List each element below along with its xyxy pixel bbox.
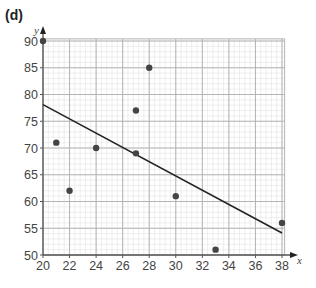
y-tick-label: 55 <box>24 222 38 236</box>
y-tick-label: 80 <box>24 88 38 102</box>
x-tick-label: 24 <box>89 259 103 273</box>
x-tick-label: 34 <box>222 259 236 273</box>
y-tick-label: 60 <box>24 195 38 209</box>
x-axis-label: x <box>296 254 302 266</box>
data-point <box>53 139 59 145</box>
data-point <box>212 246 218 252</box>
y-axis-label: y <box>33 24 39 36</box>
x-tick-label: 38 <box>275 259 289 273</box>
data-point <box>133 107 139 113</box>
line-of-best-fit <box>43 105 282 233</box>
x-tick-label: 36 <box>248 259 262 273</box>
y-tick-label: 75 <box>24 115 38 129</box>
x-tick-label: 30 <box>169 259 183 273</box>
data-point <box>66 188 72 194</box>
y-tick-label: 70 <box>24 142 38 156</box>
y-axis-arrow-icon <box>40 26 46 34</box>
x-tick-label: 26 <box>116 259 130 273</box>
scatter-chart: 20222426283032343638505560657075808590xy <box>0 0 316 288</box>
y-tick-label: 85 <box>24 61 38 75</box>
data-point <box>146 65 152 71</box>
data-point <box>173 193 179 199</box>
data-point <box>279 220 285 226</box>
y-tick-label: 65 <box>24 168 38 182</box>
data-point <box>40 38 46 44</box>
x-tick-label: 28 <box>142 259 156 273</box>
y-tick-label: 90 <box>24 35 38 49</box>
y-tick-label: 50 <box>24 249 38 263</box>
x-tick-label: 22 <box>63 259 77 273</box>
x-tick-label: 20 <box>36 259 50 273</box>
data-point <box>93 145 99 151</box>
x-tick-label: 32 <box>195 259 209 273</box>
data-point <box>133 150 139 156</box>
